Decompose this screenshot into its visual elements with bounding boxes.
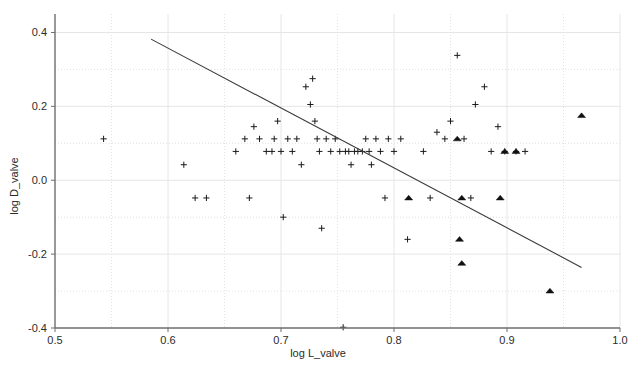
y-tick-label: -0.2 (28, 248, 47, 260)
y-tick-label: 0.0 (32, 174, 47, 186)
y-tick-label: 0.4 (32, 26, 47, 38)
x-tick-label: 0.6 (160, 334, 175, 346)
scatter-plot-figure: 0.50.60.70.80.91.0 -0.4-0.20.00.20.4 log… (0, 0, 636, 365)
plot-canvas: 0.50.60.70.80.91.0 -0.4-0.20.00.20.4 log… (0, 0, 636, 365)
y-tick-label: -0.4 (28, 322, 47, 334)
x-tick-label: 0.5 (47, 334, 62, 346)
y-tick-label: 0.2 (32, 100, 47, 112)
x-tick-label: 0.7 (273, 334, 288, 346)
y-axis-title: log D_valve (8, 157, 20, 214)
figure-background (0, 0, 636, 365)
x-tick-label: 0.9 (499, 334, 514, 346)
x-tick-label: 0.8 (386, 334, 401, 346)
x-tick-label: 1.0 (612, 334, 627, 346)
x-axis-title: log L_valve (290, 347, 346, 359)
